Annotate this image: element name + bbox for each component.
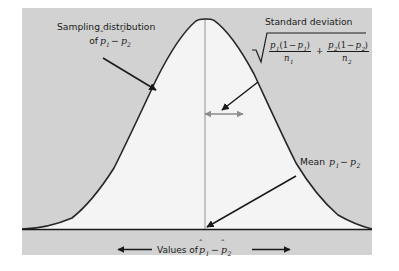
sampling-distribution-diagram: Sampling distribution of p ˆ 1 − p ˆ 2 S… (0, 0, 399, 271)
x-axis-values-of-text: Values of (157, 245, 199, 255)
mean-label-word: Mean (300, 156, 325, 167)
sd-term1-n: n (284, 53, 290, 63)
sampling-distribution-p1-sub: 1 (106, 41, 110, 48)
sampling-distribution-p2-sub: 2 (126, 41, 131, 48)
sd-term1-open-paren: (1 (280, 40, 289, 50)
x-axis-p2-hat-icon: ˆ (221, 239, 226, 249)
sd-term2-n-sub: 2 (347, 59, 352, 65)
sd-term2-n: n (342, 53, 348, 63)
mean-p1: p (329, 156, 335, 167)
sampling-distribution-p1-hat-icon: ˆ (100, 30, 105, 40)
sampling-distribution-line1: Sampling distribution (57, 21, 155, 32)
mean-p1-sub: 1 (336, 162, 340, 169)
sd-term1-n-sub: 1 (290, 59, 294, 65)
standard-deviation-label: Standard deviation (265, 16, 353, 27)
sampling-distribution-of-word: of (89, 35, 99, 46)
statistics-figure: Sampling distribution of p ˆ 1 − p ˆ 2 S… (0, 0, 399, 271)
sampling-distribution-p2-hat-icon: ˆ (121, 30, 126, 40)
standard-deviation-title: Standard deviation (265, 16, 353, 27)
sd-plus-sign: + (316, 46, 323, 56)
mean-minus: − (340, 156, 348, 167)
sd-term1-minus: − (289, 40, 296, 50)
sd-term2-open-paren: (1 (338, 40, 347, 50)
mean-p2-sub: 2 (356, 162, 361, 169)
mean-label: Mean p 1 − p 2 (300, 156, 361, 169)
x-axis-p1-sub: 1 (206, 250, 210, 257)
mean-p2: p (350, 156, 356, 167)
sd-term1-close-paren: ) (307, 40, 310, 50)
sampling-distribution-minus: − (111, 35, 119, 46)
x-axis-p1-hat-icon: ˆ (199, 239, 204, 249)
sd-term2-minus: − (347, 40, 354, 50)
x-axis-minus: − (211, 244, 219, 255)
sd-term2-close-paren: ) (365, 40, 368, 50)
x-axis-p2-sub: 2 (227, 250, 232, 257)
